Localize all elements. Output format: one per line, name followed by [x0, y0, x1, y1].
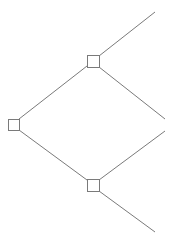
tree-edges: [19, 12, 165, 232]
tree-nodes: [9, 56, 100, 192]
edge-upper-branch-1: [99, 12, 155, 56]
edge-root-upper: [19, 66, 87, 119]
edge-root-lower: [19, 130, 87, 180]
edge-upper-branch-2: [99, 67, 165, 119]
decision-tree-diagram: [0, 0, 175, 241]
edge-lower-branch-4: [99, 191, 155, 232]
decision-node-root: [9, 120, 20, 131]
decision-node-lower: [88, 180, 100, 192]
decision-node-upper: [88, 56, 100, 68]
edge-lower-branch-3: [99, 131, 165, 180]
